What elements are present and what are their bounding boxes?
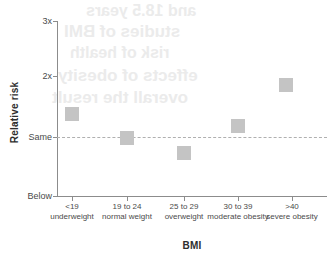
x-axis-line bbox=[57, 196, 327, 197]
bleedthrough-line: studies of BMI bbox=[64, 22, 180, 42]
data-marker-underweight bbox=[65, 107, 79, 121]
bleedthrough-line: effects of obesity bbox=[58, 66, 198, 86]
bleedthrough-line: risk of health bbox=[70, 44, 170, 62]
bleedthrough-line: overall the result bbox=[52, 88, 188, 108]
y-tick-3x bbox=[53, 21, 57, 22]
y-tick-label-3x: 3x bbox=[42, 17, 52, 26]
x-category-label-1: 19 to 24 normal weight bbox=[95, 202, 159, 221]
x-tick-0 bbox=[72, 197, 73, 201]
data-marker-overweight bbox=[177, 146, 191, 160]
chart-container: and 18.5 years studies of BMI risk of he… bbox=[0, 0, 327, 260]
x-category-desc-1: normal weight bbox=[95, 212, 159, 222]
y-axis-line bbox=[57, 21, 58, 197]
x-category-label-4: >40 severe obesity bbox=[260, 202, 324, 221]
bleedthrough-line: and 18.5 years bbox=[86, 2, 196, 20]
data-marker-moderate-obesity bbox=[231, 119, 245, 133]
y-tick-label-same: Same bbox=[28, 133, 52, 142]
y-tick-label-below: Below bbox=[27, 192, 52, 201]
y-axis-title: Relative risk bbox=[9, 68, 20, 158]
x-category-desc-4: severe obesity bbox=[260, 212, 324, 222]
reference-line-same bbox=[57, 137, 327, 138]
x-category-range-1: 19 to 24 bbox=[95, 202, 159, 212]
x-tick-3 bbox=[238, 197, 239, 201]
x-tick-1 bbox=[127, 197, 128, 201]
x-tick-2 bbox=[184, 197, 185, 201]
data-marker-severe-obesity bbox=[279, 78, 293, 92]
x-category-range-4: >40 bbox=[260, 202, 324, 212]
page-bleedthrough: and 18.5 years studies of BMI risk of he… bbox=[0, 0, 327, 260]
x-tick-4 bbox=[292, 197, 293, 201]
y-tick-2x bbox=[53, 76, 57, 77]
x-axis-title: BMI bbox=[57, 240, 327, 251]
y-tick-label-2x: 2x bbox=[42, 72, 52, 81]
data-marker-normal-weight bbox=[120, 131, 134, 145]
